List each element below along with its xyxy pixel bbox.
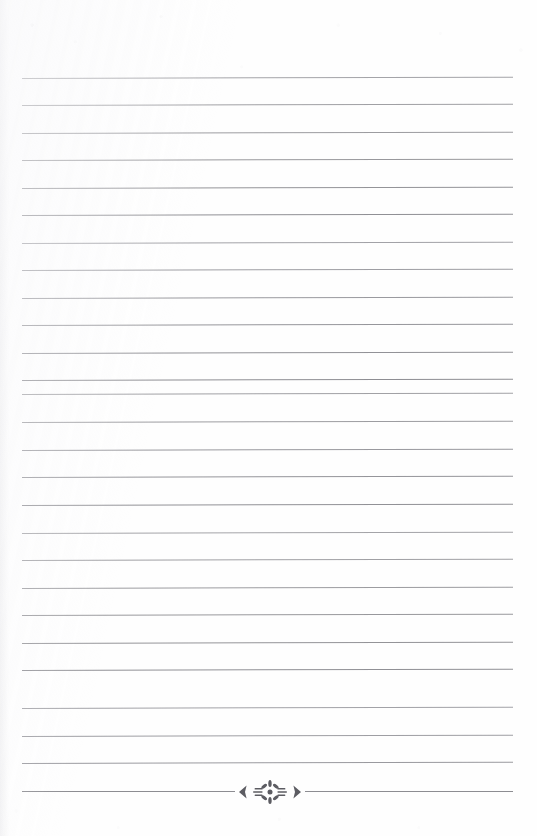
ornament-right-chevron-icon: [293, 785, 301, 798]
ruled-line: [22, 532, 513, 534]
ruled-line: [22, 352, 513, 354]
ornament-left-chevron-icon: [239, 785, 247, 798]
ruled-line: [22, 559, 513, 561]
ruled-line: [22, 762, 513, 764]
ruled-line: [22, 735, 513, 737]
ruled-lines: [0, 0, 537, 836]
ruled-line: [22, 187, 513, 189]
ruled-line: [22, 379, 513, 381]
ruled-line: [22, 104, 513, 106]
ruled-line: [22, 77, 513, 79]
ruled-line: [22, 159, 513, 161]
ruled-line: [22, 614, 513, 616]
ruled-line: [22, 242, 513, 244]
ruled-line-final-left-segment: [22, 791, 235, 792]
ruled-line: [22, 642, 513, 644]
ruled-line: [22, 476, 513, 478]
ruled-line: [22, 132, 513, 134]
ruled-line: [22, 449, 513, 451]
ruled-line: [22, 504, 513, 506]
ruled-line-final-right-segment: [305, 791, 513, 792]
ruled-line: [22, 297, 513, 299]
ruled-line: [22, 324, 513, 326]
ruled-line: [22, 421, 513, 423]
ruled-line: [22, 269, 513, 271]
ruled-page: [0, 0, 537, 836]
bottom-margin: [0, 801, 537, 836]
ruled-line: [22, 669, 513, 671]
ruled-line: [22, 587, 513, 589]
ruled-line: [22, 393, 513, 395]
ruled-line: [22, 707, 513, 709]
ruled-line: [22, 214, 513, 216]
